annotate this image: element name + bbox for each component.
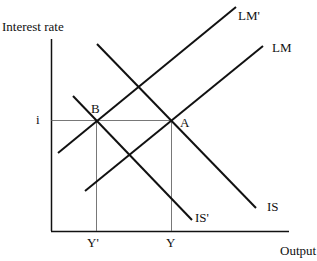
is-prime-label: IS' — [195, 210, 209, 225]
y-label: Y — [166, 235, 176, 250]
lm-prime-label: LM' — [238, 8, 260, 23]
x-axis-label: Output — [280, 243, 317, 258]
is-curve — [97, 44, 256, 208]
lm-curve — [85, 46, 263, 191]
point-a-label: A — [180, 115, 190, 130]
is-label: IS — [267, 199, 279, 214]
lm-label: LM — [272, 40, 292, 55]
lm-prime-curve — [58, 7, 236, 153]
interest-level-label: i — [36, 112, 40, 127]
y-axis-label: Interest rate — [2, 19, 64, 34]
is-lm-diagram: Interest rate Output i B A LM' LM IS IS'… — [0, 0, 317, 261]
point-b-label: B — [91, 101, 100, 116]
y-prime-label: Y' — [87, 235, 99, 250]
